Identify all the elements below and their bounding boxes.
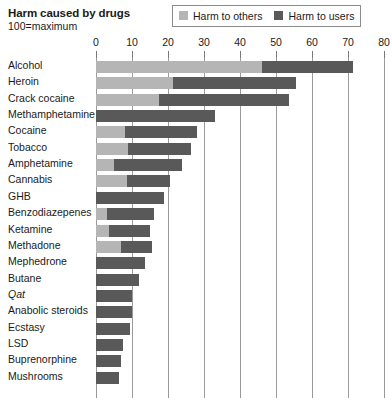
bar-segment-harm-to-others [96, 159, 114, 171]
bar-segment-harm-to-users [96, 355, 121, 367]
row-label-qat: Qat [8, 288, 25, 301]
bar-group [96, 355, 121, 367]
bar-group [96, 110, 215, 122]
row-label-mushrooms: Mushrooms [8, 370, 63, 383]
bar-segment-harm-to-users [121, 241, 152, 253]
x-tick-mark-60 [312, 51, 313, 58]
bar-group [96, 94, 289, 106]
bar-row: Anabolic steroids [0, 304, 392, 320]
x-tick-label-50: 50 [270, 36, 282, 48]
bar-segment-harm-to-others [96, 77, 173, 89]
bar-rows: AlcoholHeroinCrack cocaineMethamphetamin… [0, 58, 392, 398]
row-label-lsd: LSD [8, 337, 28, 350]
bar-row: Alcohol [0, 59, 392, 75]
bar-row: Mushrooms [0, 370, 392, 386]
bar-row: LSD [0, 337, 392, 353]
row-label-anabolic-steroids: Anabolic steroids [8, 304, 88, 317]
x-tick-label-80: 80 [378, 36, 390, 48]
bar-segment-harm-to-users [262, 61, 354, 73]
bar-group [96, 77, 296, 89]
x-tick-label-10: 10 [126, 36, 138, 48]
bar-group [96, 61, 353, 73]
bar-row: Amphetamine [0, 157, 392, 173]
bar-row: Butane [0, 272, 392, 288]
bar-row: Tobacco [0, 141, 392, 157]
row-label-tobacco: Tobacco [8, 141, 47, 154]
bar-group [96, 208, 154, 220]
bar-row: Methadone [0, 239, 392, 255]
bar-segment-harm-to-others [96, 126, 125, 138]
bar-group [96, 306, 132, 318]
bar-row: Cannabis [0, 173, 392, 189]
bar-group [96, 192, 164, 204]
bar-segment-harm-to-users [96, 110, 215, 122]
x-tick-mark-10 [132, 51, 133, 58]
bar-segment-harm-to-users [96, 290, 132, 302]
x-tick-mark-20 [168, 51, 169, 58]
bar-group [96, 257, 145, 269]
bar-segment-harm-to-users [107, 208, 154, 220]
bar-segment-harm-to-users [173, 77, 295, 89]
bar-segment-harm-to-users [96, 306, 132, 318]
x-tick-mark-0 [96, 51, 97, 58]
bar-group [96, 126, 197, 138]
bar-group [96, 323, 130, 335]
row-label-butane: Butane [8, 272, 41, 285]
bar-segment-harm-to-users [109, 225, 150, 237]
bar-segment-harm-to-others [96, 94, 159, 106]
bar-row: GHB [0, 190, 392, 206]
bar-segment-harm-to-users [114, 159, 182, 171]
bar-segment-harm-to-others [96, 241, 121, 253]
bar-group [96, 290, 132, 302]
bar-group [96, 143, 191, 155]
row-label-methamphetamine: Methamphetamine [8, 108, 95, 121]
bar-segment-harm-to-users [96, 257, 145, 269]
bar-segment-harm-to-users [96, 323, 130, 335]
row-label-amphetamine: Amphetamine [8, 157, 73, 170]
row-label-crack-cocaine: Crack cocaine [8, 92, 75, 105]
x-tick-label-40: 40 [234, 36, 246, 48]
x-tick-label-0: 0 [93, 36, 99, 48]
bar-row: Qat [0, 288, 392, 304]
row-label-cocaine: Cocaine [8, 124, 47, 137]
bar-segment-harm-to-others [96, 225, 109, 237]
bar-group [96, 274, 139, 286]
bar-row: Cocaine [0, 124, 392, 140]
x-tick-mark-80 [384, 51, 385, 58]
bar-segment-harm-to-users [128, 143, 191, 155]
x-tick-mark-40 [240, 51, 241, 58]
x-tick-mark-30 [204, 51, 205, 58]
bar-segment-harm-to-others [96, 143, 128, 155]
bar-row: Heroin [0, 75, 392, 91]
bar-row: Mephedrone [0, 255, 392, 271]
row-label-mephedrone: Mephedrone [8, 255, 67, 268]
bar-group [96, 372, 119, 384]
bar-group [96, 339, 123, 351]
bar-group [96, 159, 182, 171]
bar-segment-harm-to-users [127, 175, 170, 187]
bar-group [96, 225, 150, 237]
x-tick-label-30: 30 [198, 36, 210, 48]
row-label-methadone: Methadone [8, 239, 61, 252]
row-label-alcohol: Alcohol [8, 59, 42, 72]
bar-segment-harm-to-others [96, 61, 262, 73]
row-label-ketamine: Ketamine [8, 223, 52, 236]
bar-segment-harm-to-others [96, 208, 107, 220]
row-label-ghb: GHB [8, 190, 31, 203]
bar-segment-harm-to-users [159, 94, 289, 106]
x-tick-mark-70 [348, 51, 349, 58]
x-tick-label-70: 70 [342, 36, 354, 48]
bar-row: Ketamine [0, 223, 392, 239]
row-label-cannabis: Cannabis [8, 173, 52, 186]
bar-segment-harm-to-users [96, 372, 119, 384]
x-tick-label-60: 60 [306, 36, 318, 48]
bar-group [96, 175, 170, 187]
bar-row: Buprenorphine [0, 353, 392, 369]
harm-caused-by-drugs-chart: Harm caused by drugs 100=maximum Harm to… [0, 0, 392, 398]
x-tick-label-20: 20 [162, 36, 174, 48]
bar-segment-harm-to-users [125, 126, 197, 138]
x-axis: 01020304050607080 [0, 0, 392, 58]
bar-row: Ecstasy [0, 321, 392, 337]
row-label-heroin: Heroin [8, 75, 39, 88]
bar-segment-harm-to-users [96, 192, 164, 204]
